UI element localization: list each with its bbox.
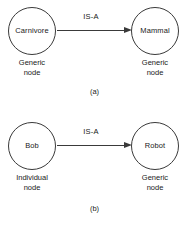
node-mammal: Mammal [131,7,179,55]
caption-line-2: node [0,183,67,193]
caption-line-2: node [120,183,189,193]
figure-caption: (a) [0,88,189,96]
caption-line-1: Generic [0,58,67,68]
node-robot: Robot [131,122,179,170]
figure-caption: (b) [0,205,189,213]
node-caption-target: Generic node [120,58,189,78]
figure-a: Carnivore Generic node IS-A Mammal Gener… [0,0,189,115]
edge-label: IS-A [60,128,122,136]
caption-line-2: node [120,68,189,78]
node-bob: Bob [8,122,56,170]
caption-line-1: Generic [120,58,189,68]
figure-page: { "figures": [ { "id": "a", "caption": "… [0,0,189,230]
node-caption-source: Individual node [0,173,67,193]
node-label: Mammal [140,27,169,35]
node-carnivore: Carnivore [8,7,56,55]
caption-line-1: Generic [120,173,189,183]
node-label: Bob [25,142,39,150]
edge-line [57,145,125,146]
node-caption-source: Generic node [0,58,67,78]
figure-b: Bob Individual node IS-A Robot Generic n… [0,115,189,230]
node-label: Robot [145,142,166,150]
edge-label: IS-A [60,13,122,21]
edge-line [57,30,125,31]
node-label: Carnivore [15,27,48,35]
caption-line-2: node [0,68,67,78]
caption-line-1: Individual [0,173,67,183]
node-caption-target: Generic node [120,173,189,193]
